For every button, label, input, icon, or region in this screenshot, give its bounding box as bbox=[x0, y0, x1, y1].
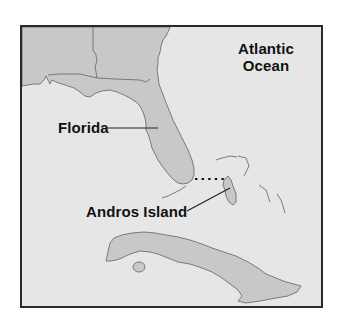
andros-leader-line bbox=[187, 188, 230, 211]
bahamas-grand bbox=[216, 156, 237, 160]
bahamas-eleuthera bbox=[259, 185, 270, 202]
andros-island-label: Andros Island bbox=[86, 203, 187, 220]
bahamas-cat bbox=[277, 194, 285, 213]
ocean-label: Atlantic Ocean bbox=[222, 40, 310, 74]
isle-of-youth bbox=[133, 262, 145, 272]
florida-label: Florida bbox=[58, 119, 109, 136]
florida-keys bbox=[162, 186, 186, 198]
ocean-label-line1: Atlantic bbox=[222, 40, 310, 57]
bahamas-abaco bbox=[238, 156, 249, 176]
ocean-label-line2: Ocean bbox=[222, 57, 310, 74]
us-mainland bbox=[22, 27, 194, 184]
